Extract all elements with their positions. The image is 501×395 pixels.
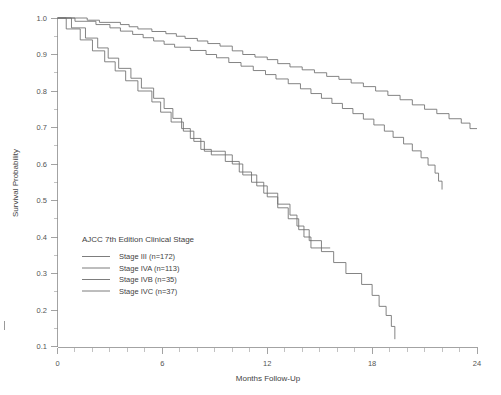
plot-background bbox=[0, 0, 501, 395]
legend-label: Stage III (n=172) bbox=[119, 252, 176, 261]
x-tick-label: 18 bbox=[368, 359, 376, 368]
y-tick-label: 0.8 bbox=[37, 87, 47, 96]
legend-label: Stage IVC (n=37) bbox=[119, 287, 178, 296]
legend-label: Stage IVA (n=113) bbox=[119, 264, 180, 273]
y-tick-label: 0.6 bbox=[37, 160, 47, 169]
survival-plot-figure: 0.10.20.30.40.50.60.70.80.91.0 06121824 … bbox=[0, 0, 501, 395]
x-tick-label: 6 bbox=[160, 359, 164, 368]
y-tick-label: 1.0 bbox=[37, 14, 47, 23]
legend-label: Stage IVB (n=35) bbox=[119, 275, 177, 284]
y-tick-label: 0.2 bbox=[37, 306, 47, 315]
x-tick-label: 12 bbox=[263, 359, 271, 368]
y-tick-label: 0.3 bbox=[37, 269, 47, 278]
y-tick-label: 0.9 bbox=[37, 50, 47, 59]
legend-title: AJCC 7th Edition Clinical Stage bbox=[82, 235, 195, 244]
x-tick-label: 24 bbox=[473, 359, 481, 368]
y-tick-label: 0.7 bbox=[37, 123, 47, 132]
y-tick-label: 0.5 bbox=[37, 196, 47, 205]
x-axis-title: Months Follow-Up bbox=[236, 374, 301, 383]
y-tick-label: 0.1 bbox=[37, 342, 47, 351]
x-tick-label: 0 bbox=[55, 359, 59, 368]
y-tick-label: 0.4 bbox=[37, 233, 47, 242]
y-axis-title: Survival Probability bbox=[11, 149, 20, 217]
